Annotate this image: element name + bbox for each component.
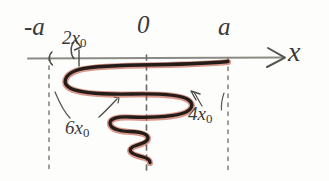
hand-drawn-figure: -a 0 a x 2x0 6x0 4x0 bbox=[0, 0, 329, 181]
axis-name-label-x: x bbox=[288, 38, 300, 66]
figure-canvas bbox=[0, 0, 329, 181]
annotation-4x0-base: 4x bbox=[188, 103, 206, 124]
annotation-2x0-base: 2x bbox=[62, 27, 80, 48]
leader-line-a-tick bbox=[221, 93, 224, 110]
annotation-6x0-subscript: 0 bbox=[83, 125, 89, 140]
annotation-6x0: 6x0 bbox=[65, 118, 89, 140]
annotation-4x0-subscript: 0 bbox=[206, 111, 212, 126]
axis-tick-label-minus-a: -a bbox=[24, 14, 45, 39]
annotation-4x0: 4x0 bbox=[188, 104, 212, 126]
leader-line-minus-a bbox=[55, 92, 70, 118]
axis-tick-label-zero: 0 bbox=[137, 12, 150, 37]
annotation-2x0-subscript: 0 bbox=[80, 35, 86, 50]
annotation-6x0-base: 6x bbox=[65, 117, 83, 138]
annotation-2x0: 2x0 bbox=[62, 28, 86, 50]
leader-line-6x0 bbox=[99, 99, 117, 117]
axis-tick-label-a: a bbox=[218, 14, 231, 39]
